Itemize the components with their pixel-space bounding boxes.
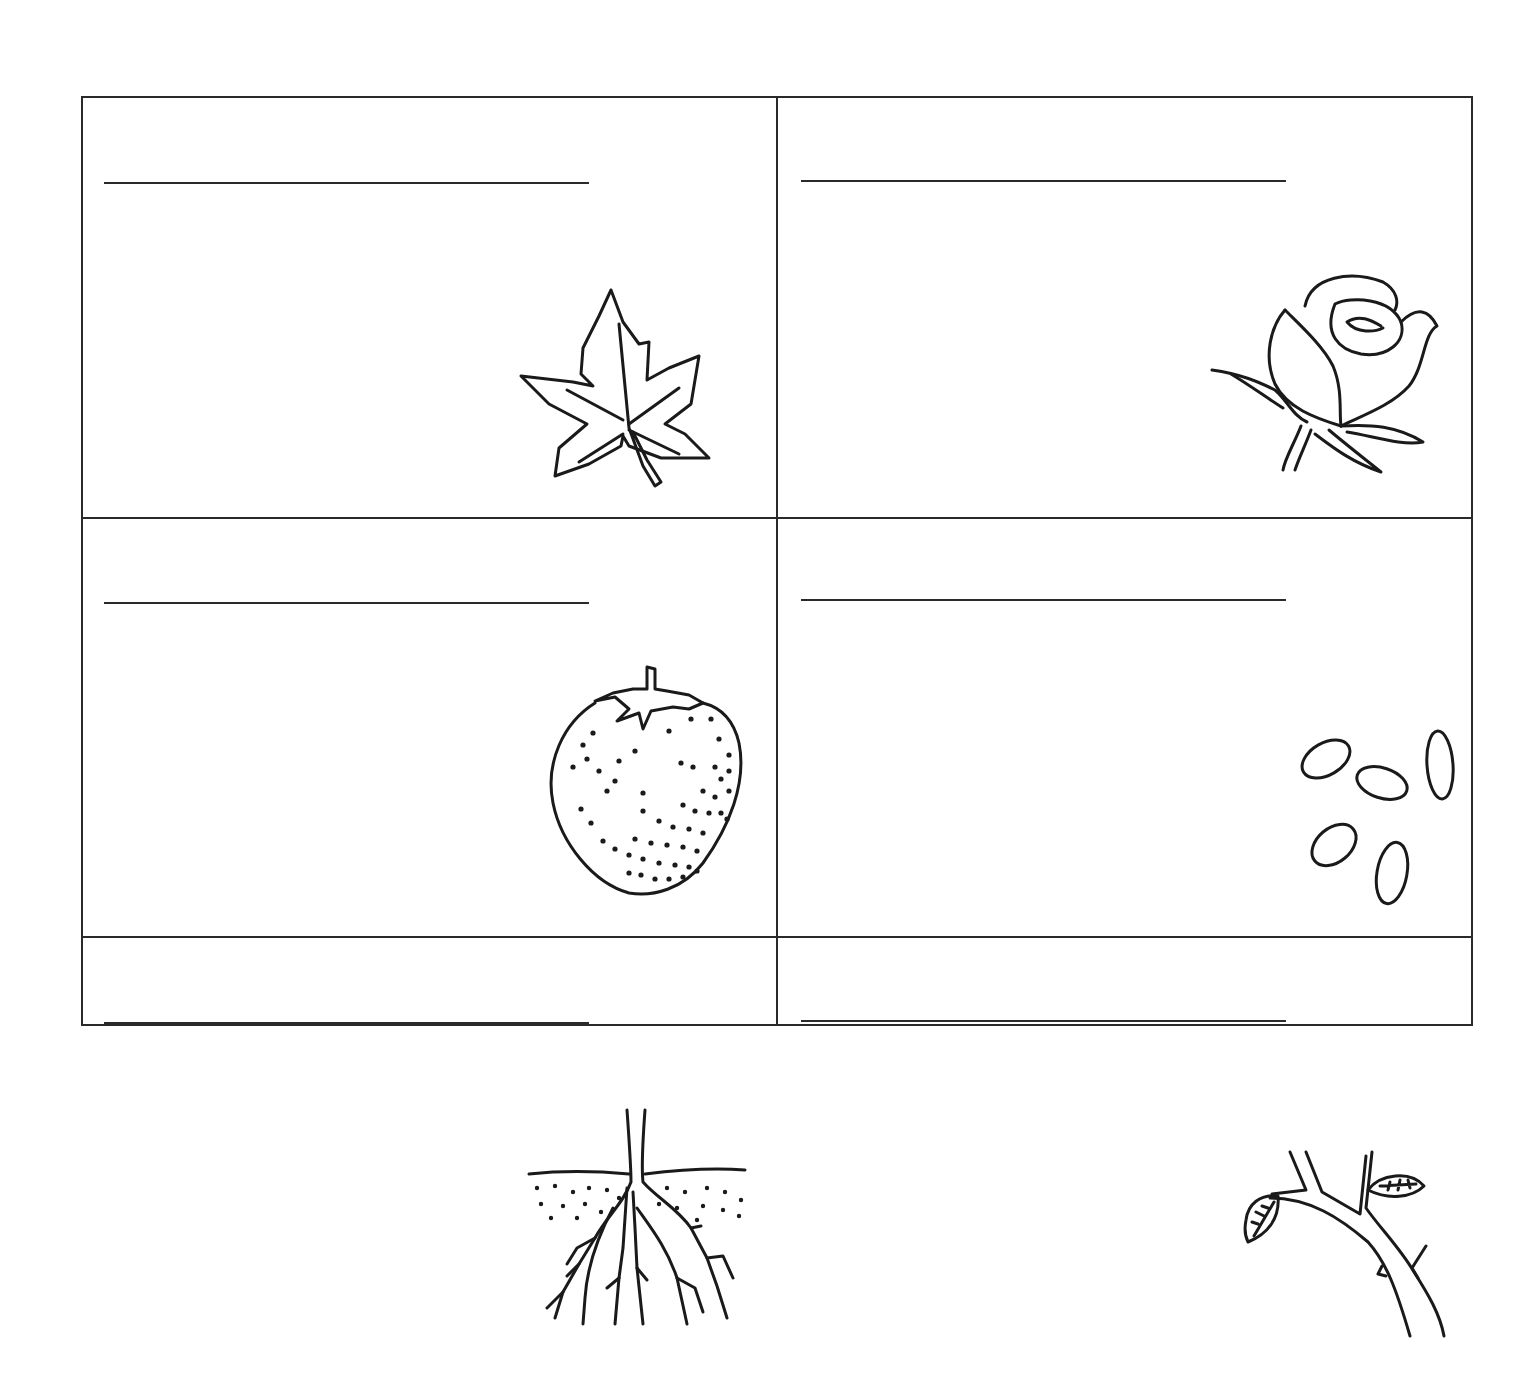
leaf-icon	[519, 286, 729, 496]
answer-line[interactable]	[801, 1020, 1286, 1022]
answer-line[interactable]	[801, 599, 1286, 601]
seeds-icon	[1300, 729, 1460, 899]
cell-leaf	[81, 96, 776, 516]
answer-line[interactable]	[104, 182, 589, 184]
answer-line[interactable]	[104, 602, 589, 604]
roots-icon	[527, 1108, 747, 1338]
cell-seeds	[778, 519, 1473, 939]
answer-input[interactable]	[104, 980, 593, 1022]
answer-input[interactable]	[104, 140, 593, 182]
answer-input[interactable]	[801, 978, 1290, 1020]
answer-line[interactable]	[801, 180, 1286, 182]
cell-flower	[778, 96, 1473, 516]
answer-input[interactable]	[104, 560, 593, 602]
cell-fruit	[81, 519, 776, 939]
fruit-strawberry-icon	[543, 663, 753, 899]
flower-icon	[1211, 266, 1441, 476]
cell-roots	[81, 938, 776, 1358]
cell-stem	[778, 938, 1473, 1358]
stem-icon	[1230, 1138, 1470, 1338]
worksheet	[81, 96, 1473, 1026]
answer-input[interactable]	[801, 138, 1290, 180]
answer-input[interactable]	[801, 557, 1290, 599]
answer-line[interactable]	[104, 1022, 589, 1024]
